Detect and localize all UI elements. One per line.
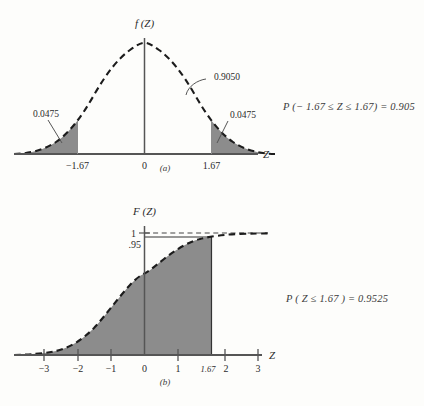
panel-b-cdf-chart: F (Z) Z 1 .95 −3 −2 −1 0 1 1.67 2 3 xyxy=(0,190,290,406)
cdf-xtick-pos3: 3 xyxy=(256,363,261,374)
cdf-x-axis-title: Z xyxy=(269,349,276,361)
panel-a-caption: (a) xyxy=(145,163,185,173)
pdf-x-axis-title: Z xyxy=(263,148,270,160)
probability-equation-b: P ( Z ≤ 1.67 ) = 0.9525 xyxy=(286,293,388,304)
cdf-ytick-label-point95: .95 xyxy=(129,239,142,250)
right-tail-area-label: 0.0475 xyxy=(230,110,256,120)
pdf-xtick-pos-1-67: 1.67 xyxy=(203,160,221,171)
cdf-xtick-neg3: −3 xyxy=(39,363,50,374)
cdf-xtick-1-67: 1.67 xyxy=(201,364,217,374)
pdf-y-axis-title: f (Z) xyxy=(135,17,155,30)
cdf-xtick-pos1: 1 xyxy=(176,363,181,374)
cdf-xtick-neg1: −1 xyxy=(106,363,117,374)
center-area-leader-line xyxy=(186,79,206,95)
cdf-xtick-neg2: −2 xyxy=(73,363,84,374)
left-tail-leader-line xyxy=(48,120,62,143)
left-tail-area-label: 0.0475 xyxy=(33,109,59,119)
panel-b-caption: (b) xyxy=(145,377,185,387)
cdf-ytick-label-one: 1 xyxy=(131,228,136,239)
cdf-y-axis-title: F (Z) xyxy=(132,205,156,218)
cdf-plot-svg: F (Z) Z 1 .95 −3 −2 −1 0 1 1.67 2 3 xyxy=(0,190,290,406)
pdf-plot-svg: f (Z) Z −1.67 0 1.67 0.0475 0.9050 0.047… xyxy=(0,0,290,190)
pdf-xtick-neg-1-67: −1.67 xyxy=(66,160,89,171)
cdf-xtick-zero: 0 xyxy=(142,363,147,374)
cdf-xtick-pos2: 2 xyxy=(224,363,229,374)
panel-a-pdf-chart: f (Z) Z −1.67 0 1.67 0.0475 0.9050 0.047… xyxy=(0,0,290,190)
center-area-label: 0.9050 xyxy=(214,72,240,82)
probability-equation-a: P (− 1.67 ≤ Z ≤ 1.67) = 0.905 xyxy=(283,101,415,112)
cdf-shaded-region xyxy=(14,237,212,355)
